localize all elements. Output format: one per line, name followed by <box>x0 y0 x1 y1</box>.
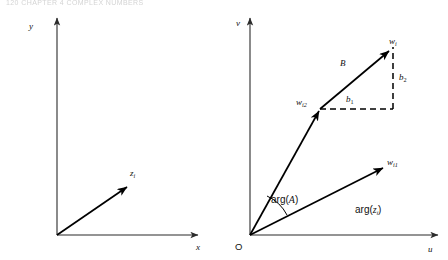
segment-b1-label: b1 <box>346 94 354 105</box>
left-panel-z-plane: y x zi <box>28 18 200 252</box>
vector-zi-arrow <box>57 187 127 235</box>
origin-label: O <box>235 241 242 252</box>
svg-text:zi: zi <box>129 168 136 179</box>
vector-zi-subscript: i <box>134 172 136 179</box>
right-panel-w-plane: v u O wi wi2 wi1 <box>235 18 438 254</box>
complex-plane-figure: y x zi v u O <box>0 0 448 260</box>
vector-wi-label: wi <box>389 36 397 47</box>
vector-wi2-arrow <box>250 111 319 235</box>
right-u-axis-label: u <box>428 244 433 254</box>
vector-zi-label: zi <box>129 168 136 179</box>
vector-wi1-label: wi1 <box>387 157 398 168</box>
figure-root: 120 CHAPTER 4 COMPLEX NUMBERS y x zi <box>0 0 448 260</box>
right-v-axis-label: v <box>236 18 240 28</box>
segment-B-label: B <box>340 58 346 68</box>
left-y-axis-label: y <box>28 21 33 31</box>
vector-wi2-label: wi2 <box>296 97 307 108</box>
angle-arg-zi-label: arg(zi) <box>355 204 381 216</box>
left-x-axis-label: x <box>195 242 200 252</box>
angle-arg-A-label: arg(A) <box>271 194 298 205</box>
segment-b2-label: b2 <box>399 72 407 83</box>
segment-B-arrow <box>320 51 389 109</box>
vector-wi1-arrow <box>250 168 383 235</box>
